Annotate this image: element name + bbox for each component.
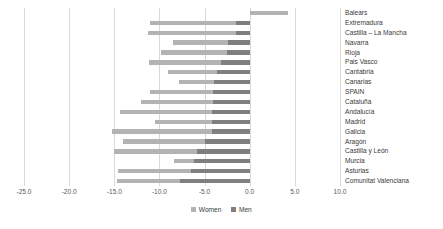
category-axis-labels: BalearsExtremaduraCastilla – La ManchaNa… xyxy=(345,8,443,186)
bar-men xyxy=(205,139,250,143)
category-label: Pais Vasco xyxy=(345,57,378,67)
bar-men xyxy=(221,60,250,64)
bar-row xyxy=(24,166,340,176)
chart-legend: WomenMen xyxy=(0,206,443,213)
bar-men xyxy=(212,120,250,124)
bar-men xyxy=(213,90,250,94)
category-label: Cataluña xyxy=(345,97,371,107)
legend-label: Women xyxy=(199,206,222,213)
bar-women xyxy=(150,21,249,25)
horizontal-bar-chart: BalearsExtremaduraCastilla – La ManchaNa… xyxy=(0,0,443,229)
legend-item[interactable]: Women xyxy=(191,206,221,213)
bar-men xyxy=(236,21,250,25)
bar-men xyxy=(217,70,250,74)
bar-row xyxy=(24,146,340,156)
bar-row xyxy=(24,57,340,67)
x-tick-label: -5.0 xyxy=(199,188,210,195)
category-label: Extremadura xyxy=(345,18,383,28)
category-label: Castilla – La Mancha xyxy=(345,28,407,38)
x-tick-label: -10.0 xyxy=(152,188,167,195)
category-label: Murcia xyxy=(345,156,365,166)
category-label: Castilla y León xyxy=(345,146,388,156)
category-label: Galicia xyxy=(345,127,365,137)
bar-women xyxy=(148,31,250,35)
bar-row xyxy=(24,28,340,38)
bar-men xyxy=(214,80,250,84)
bar-row xyxy=(24,137,340,147)
bar-row xyxy=(24,176,340,186)
plot-area xyxy=(24,8,340,186)
category-label: Comunitat Valenciana xyxy=(345,176,409,186)
category-label: Madrid xyxy=(345,117,365,127)
category-label: Navarra xyxy=(345,38,368,48)
bar-row xyxy=(24,87,340,97)
bar-men xyxy=(213,100,250,104)
x-tick-label: -20.0 xyxy=(62,188,77,195)
bar-women xyxy=(250,11,288,15)
category-label: Balears xyxy=(345,8,367,18)
bar-men xyxy=(197,149,249,153)
category-label: Cantabria xyxy=(345,67,374,77)
bar-men xyxy=(212,110,250,114)
category-label: Asturias xyxy=(345,166,369,176)
category-label: Canarias xyxy=(345,77,371,87)
bar-men xyxy=(180,179,250,183)
x-tick-label: -25.0 xyxy=(16,188,31,195)
legend-item[interactable]: Men xyxy=(231,206,251,213)
bar-men xyxy=(212,129,250,133)
bar-row xyxy=(24,38,340,48)
bar-row xyxy=(24,117,340,127)
category-label: SPAIN xyxy=(345,87,364,97)
gridline xyxy=(340,8,341,186)
bar-row xyxy=(24,127,340,137)
bar-row xyxy=(24,97,340,107)
x-tick-label: -15.0 xyxy=(107,188,122,195)
category-label: Rioja xyxy=(345,48,360,58)
bar-row xyxy=(24,67,340,77)
bar-men xyxy=(191,169,250,173)
x-tick-label: 0.0 xyxy=(245,188,254,195)
legend-swatch-icon xyxy=(231,207,236,212)
category-label: Andalucía xyxy=(345,107,374,117)
bar-row xyxy=(24,18,340,28)
bar-men xyxy=(228,40,250,44)
bar-men xyxy=(227,50,250,54)
bar-row xyxy=(24,48,340,58)
bars-layer xyxy=(24,8,340,186)
bar-row xyxy=(24,156,340,166)
category-label: Aragón xyxy=(345,137,366,147)
legend-swatch-icon xyxy=(191,207,196,212)
x-tick-label: 5.0 xyxy=(290,188,299,195)
x-axis: -25.0-20.0-15.0-10.0-5.00.05.010.0 xyxy=(24,186,340,200)
bar-row xyxy=(24,107,340,117)
bar-row xyxy=(24,77,340,87)
bar-row xyxy=(24,8,340,18)
bar-men xyxy=(194,159,250,163)
legend-label: Men xyxy=(239,206,252,213)
bar-men xyxy=(236,31,250,35)
x-tick-label: 10.0 xyxy=(334,188,347,195)
